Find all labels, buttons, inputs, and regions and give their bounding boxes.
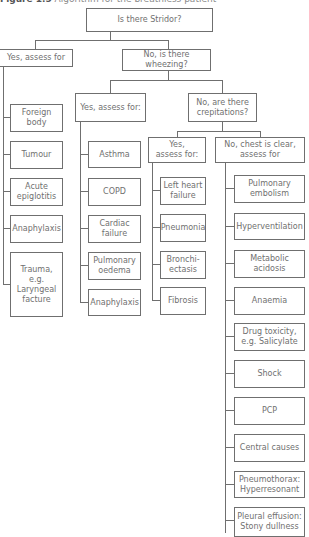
stridor-item-tumour: Tumour: [10, 141, 63, 169]
connector-crep-no-8: [225, 447, 234, 448]
crep-item-fibrosis: Fibrosis: [160, 287, 206, 315]
connector-root-branch: [35, 40, 169, 41]
root-question-box: Is there Stridor?: [86, 8, 213, 32]
connector-crep-no-spine: [225, 162, 226, 533]
wheeze-yes-header: Yes, assess for:: [75, 93, 146, 122]
connector-crep-yes-4: [152, 300, 160, 301]
connector-crep-yes-3: [152, 264, 160, 265]
clear-item-pleural-effusion: Pleural effusion: Stony dullness: [234, 507, 305, 537]
figure-caption: Figure 1.5 Algorithm for the breathless …: [0, 0, 216, 4]
crepitations-question-box: No, are there crepitations?: [188, 93, 257, 122]
clear-item-pneumothorax: Pneumothorax: Hyperresonant: [234, 471, 305, 498]
connector-crep-no-2: [225, 226, 234, 227]
connector-crep-yes-1: [152, 190, 160, 191]
connector-crep-no-10: [225, 520, 234, 521]
crep-yes-header: Yes, assess for:: [148, 137, 206, 163]
stridor-item-anaphylaxis: Anaphylaxis: [10, 215, 63, 243]
wheeze-item-copd: COPD: [88, 178, 141, 206]
connector-crep-no-1: [225, 188, 234, 189]
crep-item-pneumonia: Pneumonia: [160, 214, 206, 242]
stridor-item-trauma: Trauma, e.g. Laryngeal facture: [10, 252, 63, 317]
stridor-item-acute-epiglotitis: Acute epiglotitis: [10, 178, 63, 206]
connector-crep-no-3: [225, 263, 234, 264]
clear-item-drug-toxicity: Drug toxicity, e.g. Salicylate: [234, 323, 305, 351]
stridor-yes-header: Yes, assess for: [0, 49, 73, 67]
connector-wheeze-yes-2: [80, 191, 88, 192]
crep-item-left-heart-failure: Left heart failure: [160, 177, 206, 205]
connector-stridor-yes-1: [3, 117, 10, 118]
connector-stridor-yes-4: [3, 228, 10, 229]
connector-crep-yes-spine: [152, 162, 153, 301]
clear-item-central-causes: Central causes: [234, 434, 305, 462]
crep-no-header: No, chest is clear, assess for: [215, 137, 305, 163]
connector-stridor-yes-2: [3, 154, 10, 155]
connector-to-stridor-yes: [35, 40, 36, 49]
clear-item-pcp: PCP: [234, 397, 305, 425]
clear-item-hyperventilation: Hyperventilation: [234, 213, 305, 240]
figure-label: Figure 1.5: [0, 0, 52, 4]
connector-stridor-yes-spine: [3, 66, 4, 285]
wheeze-item-pulmonary-oedema: Pulmonary oedema: [88, 252, 141, 280]
connector-wheeze-branch: [110, 80, 222, 81]
connector-stridor-yes-3: [3, 191, 10, 192]
clear-item-pulmonary-embolism: Pulmonary embolism: [234, 175, 305, 203]
connector-stridor-yes-5: [3, 284, 10, 285]
connector-to-stridor-no: [168, 40, 169, 49]
clear-item-shock: Shock: [234, 360, 305, 388]
crep-item-bronchiectasis: Bronchi- ectasis: [160, 251, 206, 279]
connector-wheeze-yes-4: [80, 265, 88, 266]
wheezing-question-box: No, is there wheezing?: [122, 49, 211, 71]
connector-wheeze-yes-1: [80, 154, 88, 155]
connector-crep-yes-2: [152, 227, 160, 228]
connector-crep-no-5: [225, 336, 234, 337]
figure-title: Algorithm for the breathless patient: [55, 0, 217, 4]
connector-wheeze-yes-5: [80, 302, 88, 303]
stridor-item-foreign-body: Foreign body: [10, 104, 63, 132]
clear-item-anaemia: Anaemia: [234, 287, 305, 315]
connector-root-stem: [110, 31, 111, 40]
connector-crep-no-9: [225, 484, 234, 485]
connector-crep-branch: [177, 131, 261, 132]
connector-to-wheeze-yes: [110, 80, 111, 93]
connector-wheeze-yes-3: [80, 228, 88, 229]
connector-to-wheeze-no: [222, 80, 223, 93]
wheeze-item-asthma: Asthma: [88, 141, 141, 168]
connector-crep-stem: [222, 122, 223, 131]
connector-crep-no-4: [225, 300, 234, 301]
connector-wheeze-stem: [168, 70, 169, 80]
connector-crep-no-6: [225, 373, 234, 374]
connector-wheeze-yes-spine: [80, 121, 81, 303]
wheeze-item-cardiac-failure: Cardiac failure: [88, 215, 141, 243]
clear-item-metabolic-acidosis: Metabolic acidosis: [234, 250, 305, 278]
wheeze-item-anaphylaxis: Anaphylaxis: [88, 289, 141, 316]
connector-crep-no-7: [225, 410, 234, 411]
